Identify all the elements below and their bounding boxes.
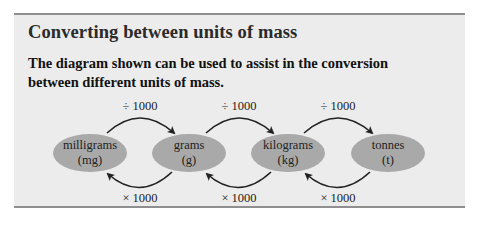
info-panel: Converting between units of mass The dia… (14, 13, 465, 208)
unit-name: tonnes (372, 138, 405, 153)
arrow-mg-to-g (107, 118, 174, 133)
unit-abbr: (g) (182, 153, 197, 168)
unit-grams: grams (g) (152, 134, 226, 172)
unit-abbr: (t) (382, 153, 394, 168)
unit-name: milligrams (63, 138, 117, 153)
multiply-label-g-mg: × 1000 (122, 191, 157, 206)
arrow-kg-to-g (207, 172, 271, 188)
unit-milligrams: milligrams (mg) (53, 134, 127, 172)
arrow-g-to-kg (206, 118, 273, 133)
unit-kilograms: kilograms (kg) (251, 134, 325, 172)
multiply-label-t-kg: × 1000 (320, 191, 355, 206)
multiply-label-kg-g: × 1000 (221, 191, 256, 206)
arrow-g-to-mg (108, 172, 172, 188)
unit-abbr: (kg) (278, 153, 299, 168)
arrow-t-to-kg (306, 172, 370, 188)
unit-tonnes: tonnes (t) (351, 134, 425, 172)
divide-label-kg-t: ÷ 1000 (321, 99, 356, 114)
mass-conversion-diagram: ÷ 1000 ÷ 1000 ÷ 1000 milligrams (mg) gra… (14, 15, 465, 210)
divide-label-mg-g: ÷ 1000 (123, 99, 158, 114)
arrow-kg-to-t (304, 118, 372, 133)
unit-abbr: (mg) (78, 153, 102, 168)
divide-label-g-kg: ÷ 1000 (222, 99, 257, 114)
unit-name: kilograms (263, 138, 313, 153)
unit-name: grams (174, 138, 205, 153)
